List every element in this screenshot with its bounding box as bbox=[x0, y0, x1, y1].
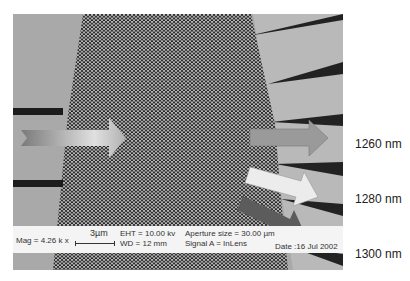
scale-bar-label: 3µm bbox=[90, 228, 108, 238]
mag-label: Mag = 4.26 k x bbox=[16, 236, 69, 246]
wavelength-label-1280: 1280 nm bbox=[355, 192, 402, 206]
sem-image: Mag = 4.26 k x 3µm EHT = 10.00 kv WD = 1… bbox=[13, 14, 343, 270]
eht-label: EHT = 10.00 kv bbox=[120, 229, 175, 239]
signal-label: Signal A = InLens bbox=[185, 239, 247, 249]
wd-label: WD = 12 mm bbox=[120, 239, 167, 249]
info-bar: Mag = 4.26 k x 3µm EHT = 10.00 kv WD = 1… bbox=[13, 226, 343, 253]
wavelength-label-1260: 1260 nm bbox=[355, 137, 402, 151]
wavelength-label-1300: 1300 nm bbox=[355, 247, 402, 261]
aperture-label: Aperture size = 30.00 µm bbox=[185, 229, 275, 239]
scale-bar bbox=[75, 241, 115, 246]
date-label: Date :16 Jul 2002 bbox=[275, 242, 338, 252]
